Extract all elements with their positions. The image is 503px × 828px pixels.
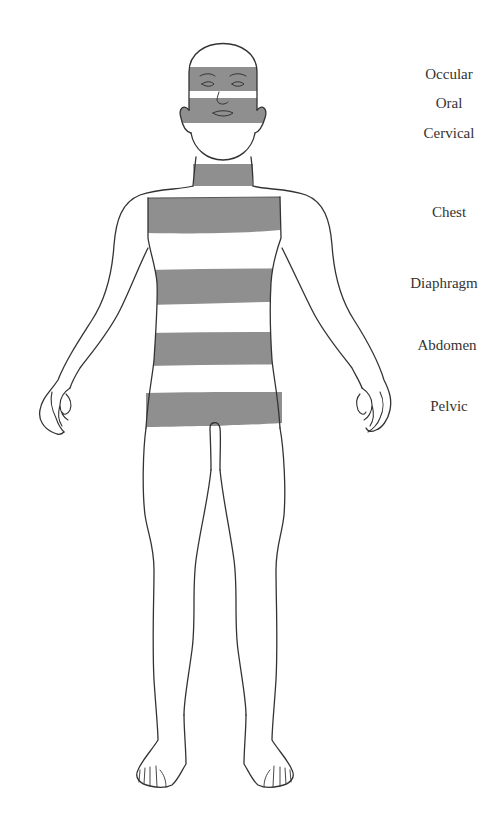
left-leg-inner (184, 470, 211, 715)
band-cervical (193, 164, 253, 186)
band-chest (147, 197, 280, 233)
left-hand (51, 388, 71, 432)
label-cervical: Cervical (424, 125, 475, 142)
label-pelvic: Pelvic (430, 398, 468, 415)
label-chest: Chest (432, 204, 466, 221)
band-diaphragm (140, 268, 290, 305)
right-leg-outline (244, 428, 293, 787)
band-pelvic (146, 392, 282, 427)
label-diaphragm: Diaphragm (410, 275, 477, 292)
label-occular: Occular (425, 66, 472, 83)
right-hand (357, 388, 383, 432)
right-leg-inner (220, 470, 246, 715)
jaw (191, 133, 255, 160)
region-bands (140, 67, 290, 427)
left-inner-arm (70, 248, 148, 388)
body-region-diagram: Occular Oral Cervical Chest Diaphragm Ab… (0, 0, 503, 828)
right-inner-arm (282, 248, 362, 388)
label-abdomen: Abdomen (417, 337, 476, 354)
band-abdomen (140, 332, 290, 366)
crotch (210, 423, 220, 470)
label-oral: Oral (436, 95, 463, 112)
left-leg-outline (137, 428, 186, 787)
